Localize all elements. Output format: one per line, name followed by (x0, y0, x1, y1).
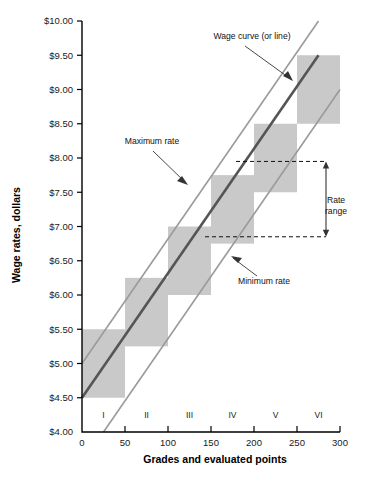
grade-label-vi: VI (314, 410, 322, 420)
rate-range-label-line2: range (325, 206, 347, 216)
x-axis-ticks (125, 426, 340, 432)
grade-label-iii: III (186, 410, 193, 420)
y-tick-label: $4.00 (49, 426, 73, 437)
y-axis-tick-labels: $4.00$4.50$5.00$5.50$6.00$6.50$7.00$7.50… (44, 15, 73, 437)
y-tick-label: $4.50 (49, 392, 73, 403)
y-tick-label: $6.00 (49, 289, 73, 300)
y-tick-label: $8.00 (49, 152, 73, 163)
grade-label-ii: II (144, 410, 149, 420)
minimum-rate-label: Minimum rate (238, 276, 290, 286)
series-line-wage-curve-or-line (82, 55, 319, 398)
grade-band-ii (125, 278, 168, 347)
y-tick-label: $9.00 (49, 84, 73, 95)
y-tick-label: $9.50 (49, 50, 73, 61)
y-tick-label: $5.50 (49, 324, 73, 335)
maximum-rate-arrowhead (177, 176, 188, 185)
y-tick-label: $6.50 (49, 255, 73, 266)
x-tick-label: 250 (289, 437, 305, 448)
y-axis-ticks (77, 21, 82, 398)
maximum-rate-label: Maximum rate (125, 136, 180, 146)
grade-roman-labels: IIIIIIIVVVI (102, 410, 322, 420)
grade-label-v: V (273, 410, 279, 420)
rate-range-arrowhead-top (323, 161, 329, 168)
x-tick-label: 50 (120, 437, 131, 448)
grade-band-group (82, 55, 340, 398)
grade-band-iv (211, 175, 254, 244)
x-tick-label: 300 (332, 437, 348, 448)
rate-range-arrowhead-bottom (323, 230, 329, 237)
y-tick-label: $10.00 (44, 15, 73, 26)
y-axis-title: Wage rates, dollars (10, 187, 22, 283)
rate-range-label-line1: Rate (327, 195, 345, 205)
y-tick-label: $7.50 (49, 187, 73, 198)
x-axis-title: Grades and evaluated points (143, 453, 287, 465)
annotation-minimum-rate: Minimum rate (231, 256, 290, 286)
x-tick-label: 150 (203, 437, 219, 448)
x-axis-tick-labels: 050100150200250300 (79, 437, 348, 448)
y-tick-label: $7.00 (49, 221, 73, 232)
wage-curve-arrowhead (283, 71, 293, 81)
y-tick-label: $5.00 (49, 358, 73, 369)
grade-band-vi (297, 55, 340, 124)
x-tick-label: 100 (160, 437, 176, 448)
wage-structure-chart: $4.00$4.50$5.00$5.50$6.00$6.50$7.00$7.50… (0, 0, 370, 490)
minimum-rate-arrowhead (231, 256, 242, 263)
annotation-wage-curve: Wage curve (or line) (213, 31, 293, 81)
x-tick-label: 200 (246, 437, 262, 448)
y-tick-label: $8.50 (49, 118, 73, 129)
wage-curve-label: Wage curve (or line) (213, 31, 290, 41)
chart-canvas: $4.00$4.50$5.00$5.50$6.00$6.50$7.00$7.50… (0, 0, 370, 490)
grade-label-iv: IV (228, 410, 236, 420)
x-tick-label: 0 (79, 437, 84, 448)
annotation-maximum-rate: Maximum rate (125, 136, 188, 185)
grade-label-i: I (102, 410, 104, 420)
